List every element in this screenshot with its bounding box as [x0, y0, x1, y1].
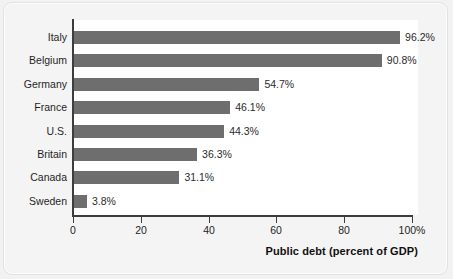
- category-label-u-s: U.S.: [0, 125, 72, 138]
- bar-value-label: 96.2%: [405, 29, 435, 45]
- bar-belgium[interactable]: [74, 54, 382, 67]
- x-tick-mark: [412, 217, 413, 223]
- bar-italy[interactable]: [74, 31, 400, 44]
- bar-france[interactable]: [74, 101, 230, 114]
- x-tick-label: 40: [203, 224, 215, 236]
- x-tick-label: 60: [270, 224, 282, 236]
- bar-value-label: 31.1%: [184, 169, 214, 185]
- bar-value-label: 3.8%: [92, 193, 116, 209]
- bar-value-label: 46.1%: [235, 99, 265, 115]
- x-tick-label: 0: [70, 224, 76, 236]
- plot-canvas: [73, 20, 418, 215]
- bar-value-label: 44.3%: [229, 123, 259, 139]
- bar-britain[interactable]: [74, 148, 197, 161]
- x-tick-mark: [73, 217, 74, 223]
- bar-canada[interactable]: [74, 171, 179, 184]
- bar-u-s[interactable]: [74, 125, 224, 138]
- bar-value-label: 36.3%: [202, 146, 232, 162]
- x-tick-label: 100%: [399, 224, 426, 236]
- x-tick-mark: [141, 217, 142, 223]
- y-axis-line: [72, 19, 74, 216]
- x-tick-mark: [344, 217, 345, 223]
- category-label-italy: Italy: [0, 31, 72, 44]
- x-tick-mark: [209, 217, 210, 223]
- x-axis-line: [72, 215, 413, 217]
- category-label-france: France: [0, 101, 72, 114]
- category-label-sweden: Sweden: [0, 195, 72, 208]
- category-label-britain: Britain: [0, 148, 72, 161]
- x-tick-label: 20: [135, 224, 147, 236]
- bar-germany[interactable]: [74, 78, 259, 91]
- x-axis-title: Public debt (percent of GDP): [265, 245, 418, 257]
- bar-chart: 96.2%90.8%54.7%46.1%44.3%36.3%31.1%3.8% …: [0, 0, 453, 279]
- bar-value-label: 54.7%: [264, 76, 294, 92]
- category-label-germany: Germany: [0, 78, 72, 91]
- bar-value-label: 90.8%: [387, 52, 417, 68]
- bar-sweden[interactable]: [74, 195, 87, 208]
- category-label-canada: Canada: [0, 171, 72, 184]
- category-label-belgium: Belgium: [0, 54, 72, 67]
- x-tick-mark: [276, 217, 277, 223]
- x-tick-label: 80: [338, 224, 350, 236]
